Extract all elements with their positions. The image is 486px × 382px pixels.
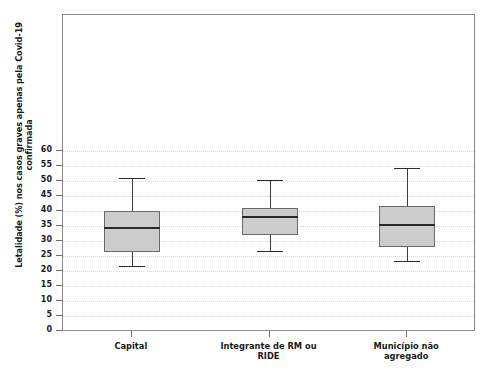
y-tick-label: 5 — [28, 310, 52, 319]
grid-line — [63, 181, 474, 182]
x-axis-category-label: Município nãoagregado — [331, 341, 481, 361]
grid-line — [63, 256, 474, 257]
whisker-upper — [407, 168, 408, 206]
y-tick-label: 50 — [28, 175, 52, 184]
y-tick-label: 10 — [28, 295, 52, 304]
x-tick-mark — [131, 331, 132, 337]
plot-area — [62, 14, 475, 331]
y-tick-label: 40 — [28, 205, 52, 214]
y-tick-label: 0 — [28, 325, 52, 334]
grid-line — [63, 301, 474, 302]
whisker-lower — [132, 252, 133, 266]
grid-line — [63, 196, 474, 197]
x-axis-category-label: Capital — [56, 341, 206, 351]
y-tick-label: 60 — [28, 145, 52, 154]
grid-line — [63, 286, 474, 287]
y-axis-title-line1: Letalidade (%) nos casos graves apenas p… — [14, 22, 24, 268]
whisker-cap-upper — [257, 180, 283, 181]
grid-line — [63, 151, 474, 152]
x-axis-category-line: Capital — [56, 341, 206, 351]
y-tick-label: 55 — [28, 160, 52, 169]
whisker-cap-upper — [119, 178, 145, 179]
grid-line — [63, 316, 474, 317]
whisker-cap-lower — [119, 266, 145, 267]
x-axis-category-line: RIDE — [194, 351, 344, 361]
x-tick-mark — [269, 331, 270, 337]
median-line — [242, 216, 298, 218]
x-axis-category-line: agregado — [331, 351, 481, 361]
y-tick-label: 30 — [28, 235, 52, 244]
x-tick-mark — [406, 331, 407, 337]
whisker-cap-lower — [394, 261, 420, 262]
grid-line — [63, 271, 474, 272]
whisker-cap-upper — [394, 168, 420, 169]
figure-box-plot: Letalidade (%) nos casos graves apenas p… — [0, 0, 486, 382]
median-line — [379, 224, 435, 226]
box-iqr — [104, 211, 160, 252]
figure-caption — [6, 373, 480, 382]
box-iqr — [242, 208, 298, 235]
whisker-lower — [270, 235, 271, 251]
y-tick-label: 35 — [28, 220, 52, 229]
whisker-upper — [270, 180, 271, 208]
y-tick-label: 25 — [28, 250, 52, 259]
median-line — [104, 227, 160, 229]
box-iqr — [379, 206, 435, 247]
y-tick-label: 45 — [28, 190, 52, 199]
x-axis-category-line: Município não — [331, 341, 481, 351]
y-tick-label: 15 — [28, 280, 52, 289]
whisker-cap-lower — [257, 251, 283, 252]
whisker-upper — [132, 178, 133, 211]
whisker-lower — [407, 247, 408, 261]
x-axis-category-line: Integrante de RM ou — [194, 341, 344, 351]
y-tick-label: 20 — [28, 265, 52, 274]
x-axis-category-label: Integrante de RM ouRIDE — [194, 341, 344, 361]
